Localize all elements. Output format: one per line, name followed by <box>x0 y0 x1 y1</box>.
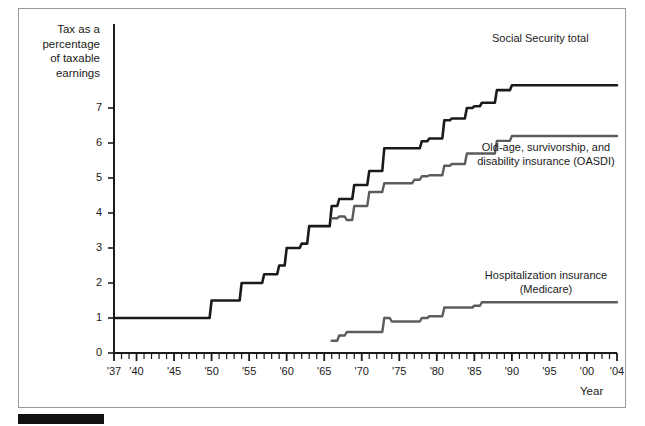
x-tick-label: '55 <box>236 365 262 377</box>
y-tick-label: 3 <box>86 241 102 253</box>
chart-series-layer <box>114 85 617 341</box>
x-tick-label: '65 <box>311 365 337 377</box>
y-tick-label: 7 <box>86 101 102 113</box>
y-tick-label: 5 <box>86 171 102 183</box>
oasdi-label-line-2: disability insurance (OASDI) <box>452 154 640 168</box>
hi-label-line-1: Hospitalization insurance <box>452 268 640 282</box>
x-tick-label: '00 <box>574 365 600 377</box>
x-axis-title: Year <box>580 385 603 397</box>
y-tick-label: 0 <box>86 346 102 358</box>
y-tick-label: 1 <box>86 311 102 323</box>
x-tick-label: '70 <box>349 365 375 377</box>
y-tick-label: 2 <box>86 276 102 288</box>
x-tick-label: '80 <box>424 365 450 377</box>
x-tick-label: '95 <box>536 365 562 377</box>
x-tick-label: '90 <box>499 365 525 377</box>
x-tick-label: '75 <box>386 365 412 377</box>
series-label-oasdi: Old-age, survivorship, and disability in… <box>452 140 640 168</box>
x-tick-label: '85 <box>461 365 487 377</box>
hi-label-line-2: (Medicare) <box>452 282 640 296</box>
series-label-hospitalization-insurance: Hospitalization insurance (Medicare) <box>452 268 640 296</box>
y-tick-label: 6 <box>86 136 102 148</box>
x-tick-label: '50 <box>199 365 225 377</box>
series-label-social-security-total: Social Security total <box>492 31 589 45</box>
x-tick-label: '04 <box>604 365 630 377</box>
x-tick-label: '60 <box>274 365 300 377</box>
series-line-hospitalization-insurance-medicare <box>332 302 617 341</box>
x-tick-label: '40 <box>124 365 150 377</box>
oasdi-label-line-1: Old-age, survivorship, and <box>452 140 640 154</box>
y-tick-label: 4 <box>86 206 102 218</box>
chart-axes <box>108 24 617 361</box>
x-tick-label: '45 <box>161 365 187 377</box>
figure-source-bar <box>18 414 104 424</box>
